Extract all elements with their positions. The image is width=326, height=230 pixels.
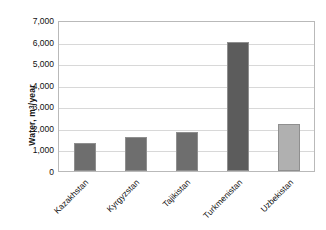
y-axis-tick-label: 5,000: [2, 60, 54, 69]
bar-slot: [161, 22, 212, 171]
x-axis-tick-slot: Uzbekistan: [264, 172, 315, 230]
y-axis-tick-label: 0: [2, 168, 54, 177]
y-axis-tick-label: 2,000: [2, 125, 54, 134]
bar[interactable]: [74, 143, 96, 171]
bar-slot: [212, 22, 263, 171]
y-axis-tick-label: 4,000: [2, 82, 54, 91]
x-axis-tick-slot: Turkmenistan: [212, 172, 263, 230]
y-axis-tick-labels: 01,0002,0003,0004,0005,0006,0007,000: [0, 0, 54, 230]
bar[interactable]: [125, 137, 147, 172]
y-axis-tick-label: 3,000: [2, 103, 54, 112]
y-axis-tick-label: 6,000: [2, 39, 54, 48]
x-axis-tick-slot: Kyrgyzstan: [109, 172, 160, 230]
bar-chart: Water, m3/year 01,0002,0003,0004,0005,00…: [0, 0, 326, 230]
x-axis-tick-labels: KazakhstanKyrgyzstanTajikistanTurkmenist…: [58, 172, 315, 230]
bars-group: [59, 22, 314, 171]
x-axis-tick-label: Kyrgyzstan: [105, 178, 141, 214]
y-axis-tick-label: 1,000: [2, 146, 54, 155]
x-axis-tick-label: Uzbekistan: [260, 178, 296, 214]
x-axis-tick-label: Kazakhstan: [52, 178, 90, 216]
bar[interactable]: [278, 124, 300, 171]
bar-slot: [263, 22, 314, 171]
bar-slot: [59, 22, 110, 171]
bar[interactable]: [176, 132, 198, 171]
bar-slot: [110, 22, 161, 171]
bar[interactable]: [227, 42, 249, 171]
plot-area: [58, 21, 315, 172]
x-axis-tick-slot: Tajikistan: [161, 172, 212, 230]
x-axis-tick-label: Tajikistan: [162, 178, 193, 209]
y-axis-tick-label: 7,000: [2, 17, 54, 26]
x-axis-tick-slot: Kazakhstan: [58, 172, 109, 230]
